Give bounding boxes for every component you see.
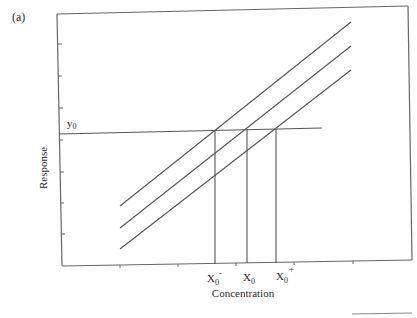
y-axis-label: Response — [37, 147, 49, 189]
drop-lines — [215, 129, 276, 264]
page-rule-fragment — [352, 313, 412, 314]
frame-right — [408, 6, 412, 260]
y0-label: y0 — [67, 117, 77, 131]
upper-limit-line — [120, 22, 351, 206]
lower-limit-line — [120, 70, 351, 249]
panel-label: (a) — [12, 10, 25, 24]
frame-top — [57, 6, 408, 14]
calibration-chart: (a) y0 Response — [0, 0, 417, 318]
x-tick-label-x0-minus: X0- — [207, 269, 222, 287]
calibration-line — [120, 46, 351, 228]
x-axis — [62, 260, 412, 266]
x-axis-label: Concentration — [212, 287, 275, 299]
x-tick-label-x0-plus: X0+ — [276, 264, 294, 285]
plot-frame — [57, 6, 412, 266]
y0-reference-line — [59, 128, 322, 134]
x-tick-label-x0: X0 — [243, 271, 255, 286]
regression-lines — [120, 22, 351, 249]
